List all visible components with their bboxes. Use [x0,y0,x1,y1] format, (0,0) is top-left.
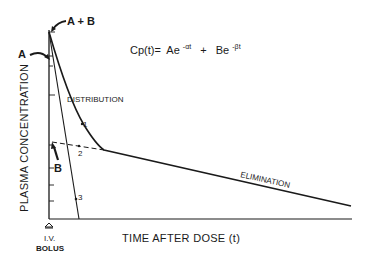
equation-term2: Be [216,44,229,56]
distribution-label: DISTRIBUTION [67,95,124,104]
pharmacokinetic-figure: A + B A B DISTRIBUTION ELIMINATION 1 2 3… [0,0,371,269]
equation-lhs: Cp(t)= [130,44,161,56]
total-concentration-curve [49,32,351,206]
a-arrow-icon [30,53,47,57]
iv-bolus-marker-icon [45,223,53,227]
iv-label: I.V. [44,234,55,243]
equation-term2-exponent: -βt [232,43,240,51]
point-1-label: 1 [83,120,88,129]
peak-arrow-icon [53,21,66,29]
point-3-marker [75,198,78,201]
equation-term1-exponent: -αt [183,43,191,50]
point-3-label: 3 [78,193,83,202]
b-arrowhead-icon [51,142,56,149]
alpha-component-line [49,32,79,219]
a-intercept-label: A [18,48,26,60]
y-axis-label: PLASMA CONCENTRATION [18,64,30,212]
y-axis-ticks [49,32,55,201]
equation-term1: Ae [166,44,179,56]
two-compartment-plot: A + B A B DISTRIBUTION ELIMINATION 1 2 3… [0,0,371,269]
peak-label: A + B [67,15,95,27]
svg-text:Cp(t)= Ae -αt: Cp(t)= Ae -αt + Be -βt [130,39,241,56]
b-intercept-label: B [54,162,62,174]
bolus-label: BOLUS [36,244,65,253]
x-axis-label: TIME AFTER DOSE (t) [122,232,240,244]
equation: Cp(t)= Ae -αt + Be -βt [130,39,241,56]
b-arrow-icon [54,147,58,160]
point-2-label: 2 [78,149,83,158]
point-2-marker [78,145,80,147]
equation-plus: + [200,44,206,56]
